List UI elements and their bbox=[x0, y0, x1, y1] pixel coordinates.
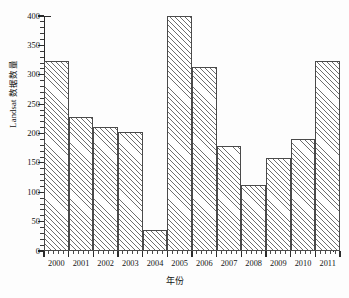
bar-slot bbox=[241, 16, 266, 251]
y-tick-label: 400 bbox=[0, 12, 40, 21]
x-tick-minor bbox=[58, 251, 59, 254]
x-tick-minor bbox=[320, 251, 321, 254]
x-tick-minor bbox=[137, 251, 138, 254]
x-tick-minor bbox=[113, 251, 114, 254]
y-tick-label: 150 bbox=[0, 158, 40, 167]
x-tick-minor bbox=[196, 251, 197, 254]
bar-2009 bbox=[266, 158, 291, 251]
x-tick-minor bbox=[275, 251, 276, 254]
x-tick-minor bbox=[211, 251, 212, 254]
x-tick-minor bbox=[147, 251, 148, 254]
x-tick-minor bbox=[236, 251, 237, 254]
x-tick-major bbox=[265, 251, 266, 257]
x-tick-minor bbox=[53, 251, 54, 254]
x-tick-major bbox=[191, 251, 192, 257]
x-axis-title: 年份 bbox=[0, 274, 349, 287]
x-tick-minor bbox=[83, 251, 84, 254]
y-tick-label: 100 bbox=[0, 188, 40, 197]
x-tick-minor bbox=[226, 251, 227, 254]
bar-series bbox=[44, 16, 340, 251]
bar-slot bbox=[217, 16, 242, 251]
x-tick-major bbox=[290, 251, 291, 257]
x-tick-minor bbox=[295, 251, 296, 254]
bar-chart: Landsat 数据数量 050100150200250300350400 20… bbox=[0, 0, 349, 298]
bar-2004 bbox=[143, 230, 168, 251]
x-tick-minor bbox=[157, 251, 158, 254]
x-tick-minor bbox=[256, 251, 257, 254]
bar-slot bbox=[315, 16, 340, 251]
x-tick-major bbox=[117, 251, 118, 257]
x-tick-label-2011: 2011 bbox=[311, 259, 345, 268]
bar-slot bbox=[69, 16, 94, 251]
x-tick-major bbox=[216, 251, 217, 257]
x-tick-minor bbox=[261, 251, 262, 254]
x-tick-major bbox=[43, 251, 44, 257]
bar-2006 bbox=[192, 67, 217, 251]
bar-2005 bbox=[167, 16, 192, 251]
x-tick-minor bbox=[310, 251, 311, 254]
x-tick-minor bbox=[231, 251, 232, 254]
bar-slot bbox=[44, 16, 69, 251]
y-tick-label: 50 bbox=[0, 217, 40, 226]
x-tick-minor bbox=[330, 251, 331, 254]
bar-2000 bbox=[44, 61, 69, 251]
bar-slot bbox=[192, 16, 217, 251]
x-tick-minor bbox=[152, 251, 153, 254]
x-tick-major bbox=[142, 251, 143, 257]
x-tick-major bbox=[167, 251, 168, 257]
x-tick-minor bbox=[177, 251, 178, 254]
x-tick-minor bbox=[108, 251, 109, 254]
bar-2010 bbox=[291, 139, 316, 251]
x-tick-minor bbox=[280, 251, 281, 254]
y-tick-label: 250 bbox=[0, 100, 40, 109]
x-tick-minor bbox=[132, 251, 133, 254]
x-tick-minor bbox=[88, 251, 89, 254]
x-tick-minor bbox=[201, 251, 202, 254]
bar-slot bbox=[93, 16, 118, 251]
x-tick-minor bbox=[206, 251, 207, 254]
bar-slot bbox=[143, 16, 168, 251]
bar-2002 bbox=[93, 127, 118, 251]
bar-slot bbox=[266, 16, 291, 251]
bar-2001 bbox=[69, 117, 94, 251]
x-tick-minor bbox=[221, 251, 222, 254]
x-tick-major bbox=[315, 251, 316, 257]
y-tick-label: 200 bbox=[0, 129, 40, 138]
x-tick-minor bbox=[325, 251, 326, 254]
bar-slot bbox=[291, 16, 316, 251]
y-tick-label: 0 bbox=[0, 247, 40, 256]
x-tick-major bbox=[339, 251, 340, 257]
x-tick-minor bbox=[162, 251, 163, 254]
y-tick-label: 350 bbox=[0, 41, 40, 50]
x-tick-major bbox=[241, 251, 242, 257]
x-tick-minor bbox=[98, 251, 99, 254]
x-tick-minor bbox=[172, 251, 173, 254]
x-tick-minor bbox=[182, 251, 183, 254]
x-tick-minor bbox=[305, 251, 306, 254]
x-tick-minor bbox=[251, 251, 252, 254]
bar-2011 bbox=[315, 61, 340, 251]
bar-2003 bbox=[118, 132, 143, 251]
x-tick-minor bbox=[187, 251, 188, 254]
bar-2007 bbox=[217, 146, 242, 251]
x-tick-minor bbox=[103, 251, 104, 254]
x-tick-minor bbox=[122, 251, 123, 254]
x-tick-minor bbox=[300, 251, 301, 254]
x-tick-minor bbox=[285, 251, 286, 254]
x-tick-minor bbox=[73, 251, 74, 254]
x-tick-minor bbox=[270, 251, 271, 254]
x-tick-minor bbox=[48, 251, 49, 254]
bar-2008 bbox=[241, 185, 266, 251]
x-tick-minor bbox=[246, 251, 247, 254]
bar-slot bbox=[118, 16, 143, 251]
x-tick-minor bbox=[78, 251, 79, 254]
x-tick-major bbox=[93, 251, 94, 257]
x-tick-minor bbox=[335, 251, 336, 254]
x-tick-minor bbox=[63, 251, 64, 254]
x-tick-major bbox=[68, 251, 69, 257]
x-tick-minor bbox=[127, 251, 128, 254]
bar-slot bbox=[167, 16, 192, 251]
y-tick-label: 300 bbox=[0, 70, 40, 79]
